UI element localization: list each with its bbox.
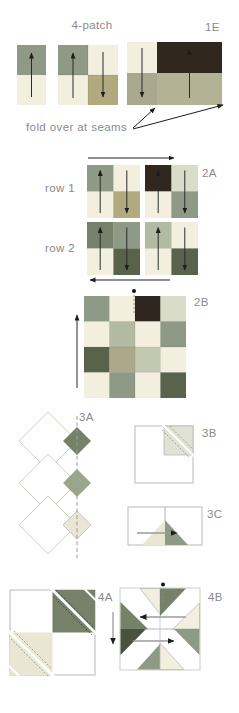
- quilt-instruction-page: 4-patch 1E fold over at seams 2A row 1 r…: [0, 0, 239, 713]
- fold-pointer-arrow: [133, 108, 155, 128]
- grid-patch: [110, 322, 136, 348]
- pin-icon: [132, 289, 136, 293]
- step-3b-diagram: [135, 425, 195, 484]
- step-4b-diagram: [113, 583, 200, 671]
- grid-patch: [84, 322, 110, 348]
- grid-patch: [84, 347, 110, 373]
- pin-icon: [161, 583, 165, 587]
- diagram-canvas: [0, 0, 239, 713]
- grid-patch: [110, 347, 136, 373]
- step-2b-diagram: [77, 289, 186, 398]
- grid-patch: [110, 296, 136, 322]
- grid-patch: [84, 296, 110, 322]
- grid-patch: [161, 296, 187, 322]
- unit-1e-diagram: [127, 42, 223, 129]
- step-2a-diagram: [87, 158, 198, 280]
- grid-patch: [161, 347, 187, 373]
- fold-pointer-arrow: [133, 105, 223, 129]
- step-3c-diagram: [128, 507, 202, 545]
- grid-patch: [84, 373, 110, 399]
- four-patch-diagram: [58, 45, 118, 105]
- grid-patch: [110, 373, 136, 399]
- pair-unit-diagram: [17, 45, 46, 105]
- step-4a-diagram: [8, 588, 98, 678]
- grid-patch: [135, 347, 161, 373]
- grid-patch: [161, 322, 187, 348]
- step-3a-diagram: [19, 412, 91, 558]
- grid-patch: [161, 373, 187, 399]
- grid-patch: [135, 373, 161, 399]
- grid-patch: [135, 322, 161, 348]
- grid-patch: [135, 296, 161, 322]
